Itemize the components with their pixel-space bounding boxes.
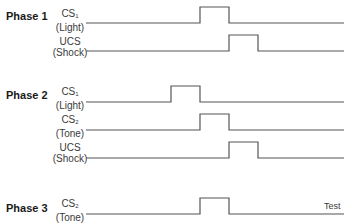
timing-waveforms <box>0 0 356 224</box>
phase-1-ucs-waveform <box>86 35 344 51</box>
phase-1-cs1-waveform <box>86 7 344 23</box>
phase-2-cs1-waveform <box>86 86 344 102</box>
phase-2-ucs-waveform <box>86 142 344 158</box>
test-annotation: Test <box>324 201 341 211</box>
phase-3-cs2-waveform <box>86 198 344 214</box>
phase-2-cs2-waveform <box>86 114 344 130</box>
